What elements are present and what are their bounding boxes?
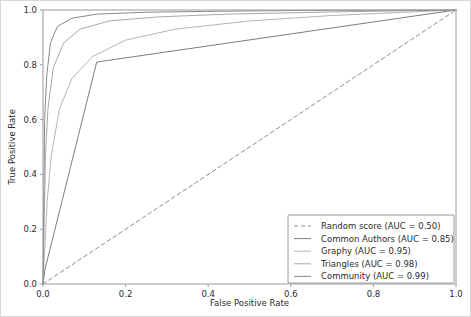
y-tick-label: 0.0 [23,279,37,289]
y-tick-label: 0.8 [23,60,37,70]
legend-label: Triangles (AUC = 0.98) [320,259,418,269]
y-axis-ticks: 0.00.20.40.60.81.0 [23,5,43,289]
legend-label: Community (AUC = 0.99) [321,271,429,281]
legend-label: Common Authors (AUC = 0.85) [321,234,454,244]
legend-label: Graphy (AUC = 0.95) [321,246,411,256]
legend-label: Random score (AUC = 0.50) [321,221,441,231]
chart-legend: Random score (AUC = 0.50)Common Authors … [288,215,454,283]
y-tick-label: 1.0 [23,5,37,15]
roc-plot-svg: 0.00.20.40.60.81.0 0.00.20.40.60.81.0 Fa… [1,1,471,317]
y-tick-label: 0.2 [23,224,37,234]
x-tick-label: 1.0 [449,289,463,299]
roc-curve-figure: 0.00.20.40.60.81.0 0.00.20.40.60.81.0 Fa… [0,0,471,317]
y-axis-title: True Positive Rate [7,109,17,186]
y-tick-label: 0.4 [23,169,37,179]
x-tick-label: 0.2 [119,289,133,299]
x-axis-title: False Positive Rate [210,298,289,308]
x-tick-label: 0.8 [367,289,381,299]
x-axis-ticks: 0.00.20.40.60.81.0 [36,284,463,299]
y-tick-label: 0.6 [23,115,37,125]
x-tick-label: 0.0 [36,289,50,299]
